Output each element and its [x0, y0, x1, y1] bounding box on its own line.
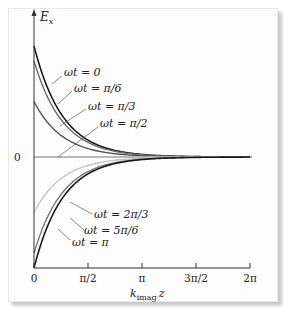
curve-label-wt-pi-3: ωt = π/3	[88, 100, 136, 113]
curves	[34, 46, 250, 268]
zero-label: 0	[14, 151, 21, 163]
curve-label-wt-pi: ωt = π	[72, 236, 110, 249]
x-tick-label: π	[139, 272, 146, 284]
x-tick-label: 2π	[243, 272, 257, 284]
curve-label-wt-pi-6: ωt = π/6	[74, 82, 122, 95]
x-tick-label: 0	[31, 272, 38, 284]
x-tick-label: π/2	[79, 272, 96, 284]
curve-0	[34, 46, 250, 157]
curve-4	[34, 157, 250, 212]
y-axis-label: Ex	[39, 10, 54, 26]
curve-5	[34, 157, 250, 253]
curve-label-wt-pi-2: ωt = π/2	[100, 117, 148, 130]
chart: 0π/2π3π/22π Ex 0 kimagz ωt = 0 ωt = π/6 …	[0, 0, 296, 314]
curve-label-wt-2pi-3: ωt = 2π/3	[94, 208, 149, 221]
x-axis-label: kimagz	[130, 287, 165, 302]
x-ticks: 0π/2π3π/22π	[31, 263, 257, 284]
x-tick-label: 3π/2	[184, 272, 208, 284]
y-axis-arrow-icon	[32, 9, 37, 16]
curve-label-wt-0: ωt = 0	[64, 66, 101, 79]
